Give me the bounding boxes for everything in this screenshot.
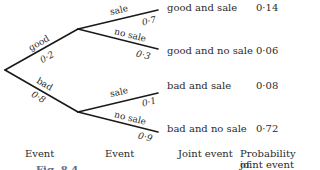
header-event-2: Event — [105, 148, 134, 159]
joint-prob-4: 0·72 — [256, 123, 278, 134]
joint-event-4: bad and no sale — [167, 123, 247, 134]
figure-caption: Fig. 8.4 — [36, 164, 78, 170]
joint-prob-1: 0·14 — [256, 2, 278, 13]
header-joint-event: Joint event — [178, 148, 233, 159]
joint-prob-3: 0·08 — [256, 80, 278, 91]
header-event-1: Event — [25, 148, 54, 159]
joint-event-2: good and no sale — [167, 45, 253, 56]
joint-event-3: bad and sale — [167, 80, 231, 91]
joint-prob-2: 0·06 — [256, 45, 278, 56]
header-probability-line2: joint event — [240, 159, 294, 170]
joint-event-1: good and sale — [167, 2, 237, 13]
